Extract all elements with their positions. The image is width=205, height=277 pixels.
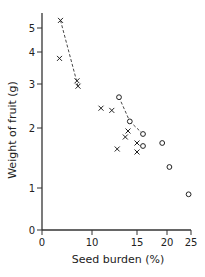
circle-marker	[127, 119, 132, 124]
x-tick-label: 10	[86, 237, 99, 248]
dashed-trend-line	[61, 20, 79, 86]
y-tick-label: 2	[29, 123, 35, 134]
dashed-lines	[61, 20, 144, 134]
circle-marker	[141, 144, 146, 149]
chart: 010152025012345 Seed burden (%) Weight o…	[0, 0, 205, 277]
circle-marker	[160, 141, 165, 146]
dashed-trend-line	[119, 97, 130, 121]
x-tick-label: 20	[161, 237, 174, 248]
y-tick-label: 1	[29, 183, 35, 194]
axes: 010152025012345	[29, 13, 198, 248]
cross-marker	[99, 106, 104, 111]
cross-marker	[135, 141, 140, 146]
y-axis-label: Weight of fruit (g)	[6, 81, 19, 179]
circle-marker	[167, 165, 172, 170]
y-tick-label: 4	[29, 47, 35, 58]
cross-marker	[123, 135, 128, 140]
cross-marker	[57, 56, 62, 61]
y-tick-label: 0	[29, 225, 35, 236]
x-tick-label: 15	[131, 237, 144, 248]
cross-marker	[109, 108, 114, 113]
cross-marker	[135, 150, 140, 155]
cross-marker	[115, 147, 120, 152]
cross-marker	[126, 129, 131, 134]
y-tick-label: 5	[29, 23, 35, 34]
circle-marker	[186, 192, 191, 197]
x-tick-label: 25	[185, 237, 198, 248]
y-tick-label: 3	[29, 79, 35, 90]
x-tick-label: 0	[39, 237, 45, 248]
circle-marker	[141, 132, 146, 137]
x-axis-label: Seed burden (%)	[72, 253, 165, 266]
cross-marker	[75, 78, 80, 83]
circle-marker	[117, 95, 122, 100]
